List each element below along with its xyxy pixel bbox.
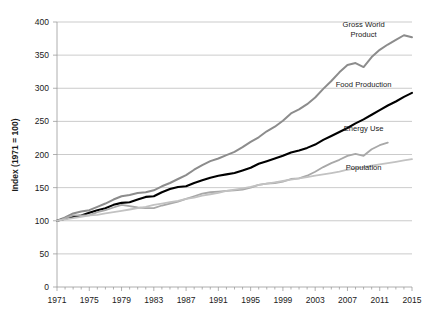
y-tick-label: 300 [35,83,49,93]
x-tick-label: 1999 [273,295,292,305]
x-tick-label: 1975 [80,295,99,305]
y-tick-label: 200 [35,150,49,160]
series-label-energy-use: Energy Use [344,124,384,133]
y-tick-label: 350 [35,50,49,60]
x-tick-label: 2015 [403,295,422,305]
y-tick-label: 250 [35,116,49,126]
y-tick-label: 0 [44,282,49,292]
gridlines-group [57,22,412,254]
series-label-population: Population [346,163,382,172]
x-tick-label: 2003 [306,295,325,305]
x-tick-label: 1971 [48,295,67,305]
x-tick-label: 1987 [177,295,196,305]
index-line-chart: 050100150200250300350400 197119751979198… [0,0,437,315]
series-label-gross-world-product: Gross World [343,20,385,29]
y-tick-label: 50 [40,249,50,259]
x-tick-labels-group: 1971197519791983198719911995199920032007… [48,295,422,305]
x-tick-label: 2011 [371,295,390,305]
x-tick-label: 2007 [338,295,357,305]
y-axis-title: Index (1971 = 100) [10,118,20,191]
y-tick-labels-group: 050100150200250300350400 [35,17,49,292]
y-tick-label: 100 [35,216,49,226]
x-tick-label: 1979 [112,295,131,305]
chart-container: 050100150200250300350400 197119751979198… [0,0,437,315]
y-tick-label: 400 [35,17,49,27]
series-labels-group: Gross WorldProductFood ProductionEnergy … [336,20,392,172]
series-label-food-production: Food Production [336,80,392,89]
y-tick-label: 150 [35,183,49,193]
tickmarks-group [53,22,412,291]
x-tick-label: 1995 [241,295,260,305]
series-label-gross-world-product: Product [351,30,378,39]
x-tick-label: 1983 [144,295,163,305]
x-tick-label: 1991 [209,295,228,305]
